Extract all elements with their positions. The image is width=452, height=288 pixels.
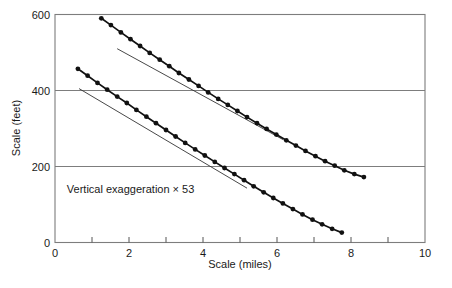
lower-profile-point [242,178,247,183]
upper-profile-point [313,154,318,159]
upper-profile-point [157,57,162,62]
upper-profile-point [235,109,240,114]
lower-profile-point [183,141,188,146]
y-tick-label-400: 400 [32,85,50,97]
lower-profile-point [281,201,286,206]
lower-profile-point [76,66,81,71]
upper-profile-point [187,77,192,82]
lower-profile-point [251,184,256,189]
lower-profile-point [95,81,100,86]
upper-profile-point [323,159,328,164]
x-axis-title: Scale (miles) [208,258,272,270]
upper-profile-point [99,16,104,21]
lower-profile-point [300,212,305,217]
upper-profile-point [147,51,152,56]
upper-profile-point [284,138,289,143]
lower-profile-point [154,121,159,126]
lower-profile-point [320,222,325,227]
upper-profile-point [167,64,172,69]
upper-profile-point [294,143,299,148]
upper-profile-point [274,132,279,137]
upper-profile-point [128,37,133,42]
upper-profile-point [216,97,221,102]
lower-profile-point [85,73,90,78]
lower-profile-point [339,230,344,235]
upper-profile-point [177,71,182,76]
lower-profile-point [222,166,227,171]
upper-profile-point [119,30,124,35]
upper-profile-point [138,44,143,49]
y-tick-label-600: 600 [32,9,50,21]
lower-profile-point [212,160,217,165]
profile-chart: 02468100200400600 Scale (miles) Scale (f… [0,0,452,288]
upper-profile-point [342,168,347,173]
lower-profile-point [115,94,120,99]
upper-profile-point [362,175,367,180]
lower-profile-point [291,207,296,212]
lower-profile-point [261,190,266,195]
lower-profile-point [144,114,149,119]
lower-profile-point [193,147,198,152]
lower-profile-point [232,172,237,177]
lower-profile-point [134,108,139,113]
lower-profile-point [164,128,169,133]
x-tick-label-0: 0 [52,247,58,259]
lower-profile-point [202,153,207,158]
lower-profile-point [124,101,129,106]
plot-frame [55,15,425,243]
upper-profile-point [225,103,230,108]
upper-profile-point [245,115,250,120]
y-axis-title: Scale (feet) [10,100,22,156]
lower-profile-point [330,226,335,231]
upper-profile-point [264,126,269,131]
vertical-exaggeration-annotation: Vertical exaggeration × 53 [67,183,195,195]
upper-profile-point [109,23,114,28]
lower-profile-point [310,217,315,222]
lower-profile-point [271,196,276,201]
upper-profile-point [255,121,260,126]
tangent-line-2 [79,89,247,189]
lower-profile-point [105,87,110,92]
upper-profile-point [332,163,337,168]
upper-profile-point [206,90,211,95]
upper-profile-point [196,84,201,89]
y-tick-label-0: 0 [44,237,50,249]
x-tick-label-10: 10 [419,247,431,259]
stream-profile-figure: 02468100200400600 Scale (miles) Scale (f… [0,0,452,288]
x-tick-label-4: 4 [200,247,206,259]
y-tick-label-200: 200 [32,161,50,173]
upper-profile-point [352,172,357,177]
x-tick-label-2: 2 [126,247,132,259]
lower-profile-point [173,134,178,139]
x-tick-label-6: 6 [274,247,280,259]
upper-profile-line [101,18,364,177]
x-tick-label-8: 8 [348,247,354,259]
upper-profile-point [303,149,308,154]
